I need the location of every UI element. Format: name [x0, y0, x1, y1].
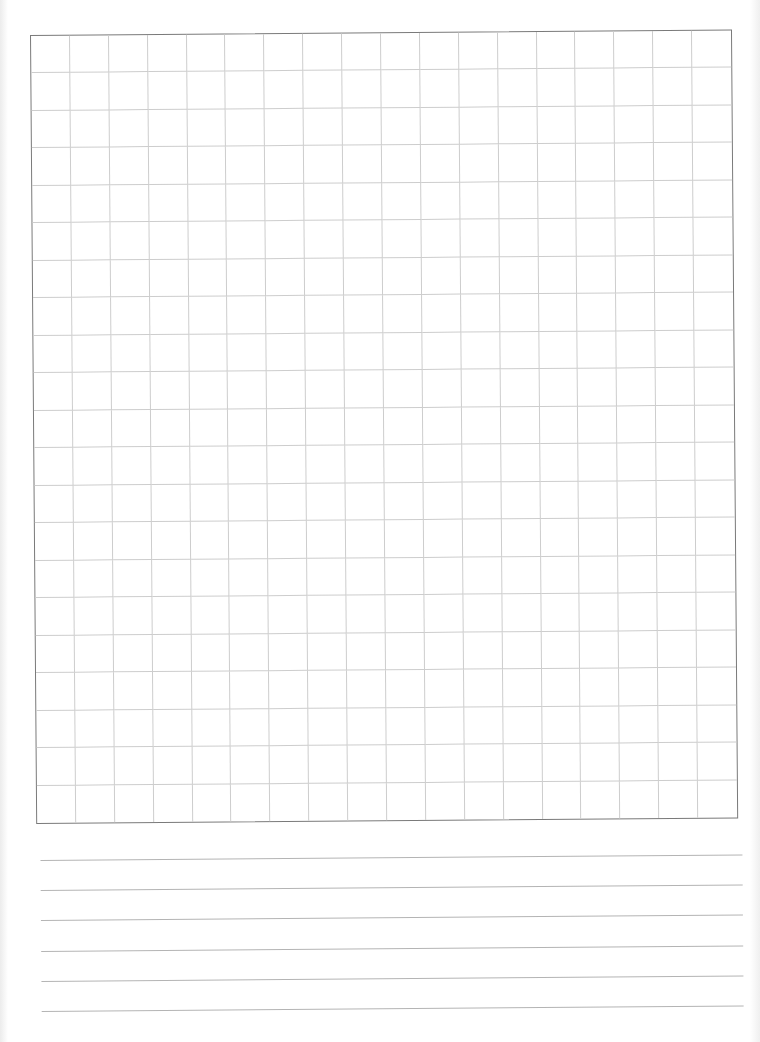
grid-cell — [463, 632, 502, 670]
grid-cell — [539, 332, 578, 370]
grid-cell — [581, 743, 620, 781]
grid-cell — [109, 35, 148, 73]
grid-cell — [578, 369, 617, 407]
grid-cell — [152, 634, 191, 672]
grid-cell — [227, 296, 266, 334]
grid-cell — [75, 710, 114, 748]
grid-cell — [74, 523, 113, 561]
grid-cell — [539, 294, 578, 332]
worksheet-page — [0, 0, 760, 1042]
grid-cell — [266, 221, 305, 259]
grid-cell — [304, 108, 343, 146]
grid-cell — [268, 521, 307, 559]
grid-cell — [425, 707, 464, 745]
grid-cell — [35, 560, 74, 598]
grid-cell — [657, 480, 696, 518]
grid-cell — [151, 447, 190, 485]
page-edge-shadow-left — [0, 0, 8, 1042]
grid-cell — [385, 483, 424, 521]
grid-cell — [616, 218, 655, 256]
grid-cell — [267, 334, 306, 372]
grid-cell — [502, 632, 541, 670]
grid-cell — [36, 673, 75, 711]
grid-cell — [230, 671, 269, 709]
grid-cell — [460, 220, 499, 258]
grid-cell — [461, 295, 500, 333]
grid-cell — [424, 520, 463, 558]
grid-cell — [461, 257, 500, 295]
grid-cell — [266, 184, 305, 222]
grid-cell — [35, 598, 74, 636]
grid-cell — [342, 71, 381, 109]
grid-cell — [189, 297, 228, 335]
grid-cell — [697, 705, 736, 743]
grid-cell — [460, 145, 499, 183]
grid-cell — [112, 410, 151, 448]
grid-cell — [386, 670, 425, 708]
grid-cell — [34, 448, 73, 486]
grid-cell — [463, 594, 502, 632]
grid-cell — [192, 672, 231, 710]
grid-cell — [462, 407, 501, 445]
grid-cell — [72, 335, 111, 373]
grid-cell — [33, 335, 72, 373]
grid-cell — [461, 370, 500, 408]
grid-cell — [229, 446, 268, 484]
grid-cell — [35, 523, 74, 561]
grid-cell — [344, 221, 383, 259]
grid-cell — [694, 255, 733, 293]
grid-cell — [309, 746, 348, 784]
grid-cell — [656, 406, 695, 444]
grid-cell — [577, 219, 616, 257]
grid-cell — [580, 668, 619, 706]
grid-cell — [618, 556, 657, 594]
grid-cell — [537, 144, 576, 182]
grid-cell — [231, 746, 270, 784]
grid-cell — [188, 259, 227, 297]
grid-cell — [149, 185, 188, 223]
grid-cell — [540, 519, 579, 557]
grid-cell — [381, 70, 420, 108]
grid-cell — [151, 484, 190, 522]
grid-cell — [384, 370, 423, 408]
grid-cell — [192, 709, 231, 747]
grid-cell — [192, 746, 231, 784]
grid-cell — [498, 69, 537, 107]
grid-cell — [382, 108, 421, 146]
grid-cell — [421, 183, 460, 221]
grid-cell — [269, 596, 308, 634]
grid-cell — [541, 556, 580, 594]
writing-line — [41, 945, 743, 952]
grid-cell — [537, 107, 576, 145]
grid-cell — [151, 522, 190, 560]
grid-cell — [304, 146, 343, 184]
grid-cell — [347, 633, 386, 671]
grid-cell — [695, 405, 734, 443]
grid-cell — [655, 218, 694, 256]
grid-cell — [498, 32, 537, 70]
grid-cell — [343, 108, 382, 146]
grid-cell — [303, 34, 342, 72]
page-edge-shadow-right — [750, 0, 760, 1042]
grid-cell — [72, 260, 111, 298]
grid-cell — [615, 181, 654, 219]
grid-cell — [500, 294, 539, 332]
grid-cell — [382, 220, 421, 258]
grid-cell — [697, 668, 736, 706]
grid-cell — [153, 709, 192, 747]
grid-cell — [309, 708, 348, 746]
grid-cell — [36, 635, 75, 673]
grid-cell — [307, 483, 346, 521]
grid-cell — [693, 105, 732, 143]
grid-cell — [426, 782, 465, 820]
grid-cell — [463, 519, 502, 557]
grid-cell — [346, 520, 385, 558]
grid-cell — [504, 782, 543, 820]
writing-line — [40, 854, 742, 861]
grid-cell — [191, 559, 230, 597]
grid-cell — [387, 782, 426, 820]
grid-cell — [33, 261, 72, 299]
grid-cell — [71, 223, 110, 261]
grid-cell — [264, 34, 303, 72]
grid-cell — [225, 34, 264, 72]
